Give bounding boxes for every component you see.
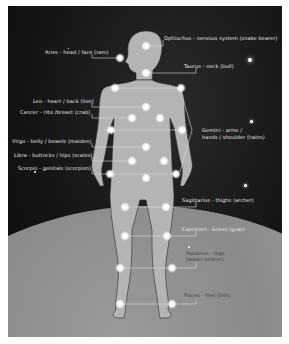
label-pisces: Pisces - feet (fish) [184, 292, 231, 298]
label-capricorn: Capricorn - knees (goat) [182, 226, 245, 232]
label-taurus: Taurus - neck (bull) [184, 63, 234, 69]
label-scorpio: Scorpio - genitals (scorpion) [18, 165, 91, 171]
label-gemini-line1: Gemini - arms / [202, 127, 242, 133]
label-gemini-line2: hands / shoulder (twins) [202, 134, 265, 140]
body-figure [0, 0, 289, 344]
label-libra: Libra - buttocks / hips (scales) [14, 152, 92, 158]
label-ophiuchus: Ophiuchus - nervous system (snake bearer… [164, 35, 277, 41]
label-aries: Aries - head / face (ram) [45, 49, 109, 55]
label-leo: Leo - heart / back (lion) [33, 98, 94, 104]
label-virgo: Virgo - belly / bowels (maiden) [12, 138, 91, 144]
label-sagittarius: Sagittarius - thighs (archer) [182, 197, 254, 203]
label-aquarius-line2: (water bearer) [186, 256, 224, 262]
label-cancer: Cancer - ribs /breast (crab) [20, 109, 90, 115]
